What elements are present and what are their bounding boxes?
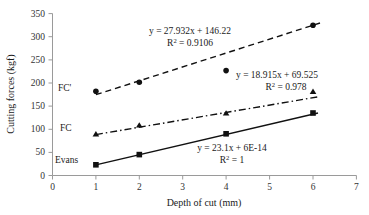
y-tick-label-100: 100: [31, 124, 46, 134]
x-tick-label-4: 4: [224, 182, 229, 192]
series-label-fc-prime: FC': [58, 83, 72, 93]
data-point-fc-prime-1: [93, 89, 99, 95]
y-tick-label-350: 350: [31, 9, 46, 19]
data-point-evans-2: [137, 152, 143, 158]
data-point-fc-6: [310, 89, 317, 94]
equation-fc-line2: R2 = 0.978: [265, 81, 306, 92]
y-tick-label-200: 200: [31, 78, 46, 88]
x-axis-title: Depth of cut (mm): [167, 197, 242, 209]
r-squared-value-3: = 1: [229, 155, 244, 165]
data-point-evans-4: [223, 131, 229, 137]
y-axis-ticks: [49, 14, 53, 176]
data-point-fc-prime-6: [310, 22, 316, 28]
equation-evans-line2: R2 = 1: [220, 154, 245, 165]
x-axis-ticks: [53, 176, 357, 180]
data-point-evans-6: [310, 110, 316, 116]
x-tick-label-2: 2: [137, 182, 142, 192]
y-tick-label-150: 150: [31, 101, 46, 111]
equation-fc-line1: y = 18.915x + 69.525: [236, 70, 318, 80]
y-axis-title: Cutting forces (kgf): [5, 54, 17, 133]
x-tick-label-5: 5: [267, 182, 272, 192]
y-tick-label-0: 0: [40, 171, 45, 181]
data-point-fc-prime-4: [223, 68, 229, 74]
data-point-fc-2: [136, 122, 143, 127]
data-point-fc-4: [223, 110, 230, 115]
trendline-evans: [96, 113, 318, 165]
equation-fc-prime-line2: R2 = 0.9106: [167, 37, 213, 48]
x-tick-label-0: 0: [50, 182, 55, 192]
y-tick-label-300: 300: [31, 32, 46, 42]
x-tick-label-6: 6: [311, 182, 316, 192]
series-label-evans: Evans: [55, 155, 79, 165]
cutting-forces-scatter-chart: 0 50 100 150 200 250 300 350 0 1 2 3 4 5…: [0, 0, 369, 215]
y-tick-label-50: 50: [36, 147, 46, 157]
equation-fc-prime-line1: y = 27.932x + 146.22: [149, 26, 231, 36]
r-squared-value-1: = 0.9106: [177, 38, 213, 48]
series-label-fc: FC: [60, 123, 72, 133]
x-tick-label-7: 7: [354, 182, 359, 192]
y-tick-label-250: 250: [31, 55, 46, 65]
x-tick-label-3: 3: [180, 182, 185, 192]
chart-container: 0 50 100 150 200 250 300 350 0 1 2 3 4 5…: [0, 0, 369, 215]
trendline-fc: [96, 97, 320, 135]
equation-evans-line1: y = 23.1x + 6E-14: [197, 143, 267, 153]
r-squared-value-2: = 0.978: [275, 82, 307, 92]
data-point-fc-prime-2: [137, 79, 143, 85]
data-point-evans-1: [93, 162, 99, 168]
x-tick-label-1: 1: [94, 182, 99, 192]
